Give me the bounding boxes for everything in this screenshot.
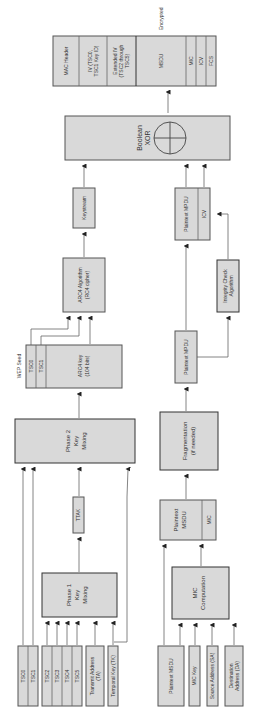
field-mac-header: MAC Header: [63, 46, 69, 75]
input-ta-line2: (TA): [95, 671, 101, 681]
msdu-mic-label: MIC: [206, 515, 212, 525]
phase2-key-mixing-box: Phase 2 Key Mixing: [15, 419, 135, 463]
phase1-key-mixing-box: Phase 1 Key Mixing: [42, 573, 117, 617]
tkip-diagram: Encrypted MAC Header IV (TSC0, TSC1 Key …: [0, 0, 254, 723]
mic-computation-line2: Computation: [200, 576, 206, 610]
wep-seed-box: WEP Seed TSC0 TSC1 ARC4 key (104 bits): [16, 345, 122, 388]
input-tsc5: TSC5: [74, 669, 80, 682]
input-tsc1: TSC1: [30, 669, 36, 682]
left-input-group: TSC0 TSC1 TSC2 TSC3 TSC4 TSC5 Transmit A…: [18, 646, 118, 706]
boolean-xor-box: Boolean XOR: [65, 116, 230, 160]
mic-computation-line1: MIC: [192, 587, 198, 599]
plaintext-mpdu-box: Plaintext MPDU: [175, 331, 197, 383]
phase1-line1: Phase 1: [66, 583, 72, 606]
input-plaintext-msdu: Plaintext MSDU: [168, 658, 174, 694]
plaintext-msdu-line2: MSDU: [181, 511, 187, 529]
phase1-line3: Mixing: [82, 586, 88, 603]
input-tsc3: TSC3: [54, 669, 60, 682]
encrypted-label: Encrypted: [158, 7, 164, 30]
field-icv: ICV: [198, 56, 204, 65]
xor-label-line1: Boolean: [136, 125, 143, 151]
keystream-label: Keystream: [81, 196, 87, 220]
input-tsc0: TSC0: [20, 669, 26, 682]
arc4-key-line2: (104 bits): [84, 355, 90, 376]
input-tsc4: TSC4: [64, 669, 70, 682]
output-frame: Encrypted MAC Header IV (TSC0, TSC1 Key …: [53, 7, 216, 86]
xor-label-line2: XOR: [144, 130, 151, 145]
ttak-box: TTAK: [73, 497, 84, 533]
input-mic-key: MIC Key: [191, 666, 197, 686]
integrity-check-box: Integrity Check Algorithm: [217, 260, 239, 312]
plaintext-mpdu-icv-label: Plaintext MPDU: [183, 196, 189, 232]
field-iv-line2: TSC1 Key ID): [93, 45, 99, 76]
wep-seed-tsc0: TSC0: [28, 359, 34, 372]
integrity-check-line2: Algorithm: [228, 275, 234, 296]
fragmentation-line2: (if needed): [190, 427, 196, 456]
ttak-label: TTAK: [75, 508, 81, 521]
plaintext-msdu-line1: Plaintext: [173, 508, 179, 531]
icv-label: ICV: [201, 209, 207, 218]
arc4-algorithm-box: ARC4 Algorithm (RC4 cipher): [63, 258, 105, 312]
fragmentation-line1: Fragmentation: [182, 422, 188, 461]
xor-circle-icon: [154, 122, 186, 154]
plaintext-mpdu-icv-box: Plaintext MPDU ICV: [175, 188, 210, 240]
wep-seed-label: WEP Seed: [16, 354, 22, 379]
input-tk: Temporal Key (TK): [110, 655, 116, 697]
phase2-line2: Key: [73, 436, 79, 446]
arc4-algorithm-line1: ARC4 Algorithm: [77, 267, 83, 303]
phase1-line2: Key: [74, 590, 80, 600]
plaintext-msdu-mic-box: Plaintext MSDU MIC: [160, 500, 216, 540]
arc4-key-line1: ARC4 key: [77, 354, 83, 377]
field-mic: MIC: [188, 56, 194, 66]
phase2-line3: Mixing: [81, 432, 87, 449]
plaintext-mpdu-label: Plaintext MPDU: [183, 339, 189, 375]
field-msdu: MSDU: [158, 53, 164, 68]
input-da-line2: Address (DA): [234, 661, 240, 691]
input-sa: Source Address (SA): [209, 652, 215, 699]
mic-computation-box: MIC Computation: [172, 567, 229, 619]
right-input-group: Plaintext MSDU MIC Key Source Address (S…: [158, 646, 243, 706]
keystream-box: Keystream: [73, 188, 95, 228]
fragmentation-box: Fragmentation (if needed): [160, 412, 218, 470]
field-extiv-line3: TSC5): [124, 53, 130, 68]
arc4-algorithm-line2: (RC4 cipher): [84, 270, 90, 299]
input-tsc2: TSC2: [44, 669, 50, 682]
wep-seed-tsc1: TSC1: [38, 359, 44, 372]
phase2-line1: Phase 2: [65, 429, 71, 452]
field-fcs: FCS: [208, 55, 214, 66]
